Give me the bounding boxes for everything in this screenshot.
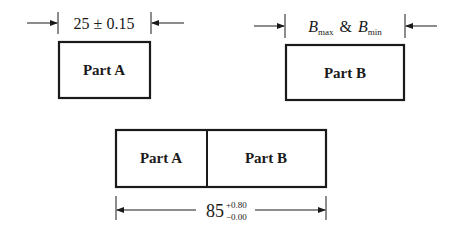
tolerance-stackup-diagram: 25 ± 0.15 Part A Bmax&Bmin Part B Part A… <box>0 0 462 234</box>
assembly-tolerance-upper: +0.80 <box>226 200 247 210</box>
part-b-group: Bmax&Bmin Part B <box>254 14 437 100</box>
part-a-dimension: 25 ± 0.15 <box>74 15 135 32</box>
assembly-part-b-label: Part B <box>245 150 287 166</box>
part-b-dimension: Bmax&Bmin <box>308 18 382 37</box>
assembly-tolerance-lower: −0.00 <box>226 212 247 222</box>
assembly-dimension-nominal: 85 <box>206 201 224 221</box>
part-a-group: 25 ± 0.15 Part A <box>27 12 184 98</box>
assembly-group: Part A Part B 85 +0.80 −0.00 <box>116 130 326 222</box>
assembly-part-a-label: Part A <box>140 150 182 166</box>
part-a-label: Part A <box>83 62 125 78</box>
part-b-label: Part B <box>324 65 366 81</box>
